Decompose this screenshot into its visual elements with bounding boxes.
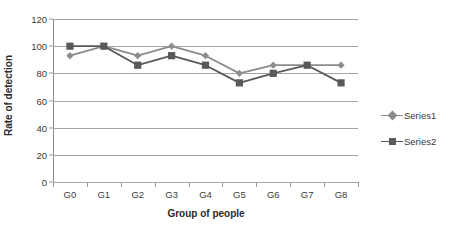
y-axis-tick-labels: 020406080100120 xyxy=(18,0,50,236)
x-axis-tick-label: G1 xyxy=(97,189,110,200)
x-axis-tick-label: G3 xyxy=(165,189,178,200)
y-axis-tick-label: 120 xyxy=(31,14,47,25)
data-point-diamond xyxy=(202,52,209,59)
x-axis-title: Group of people xyxy=(53,208,359,219)
y-axis-tick-label: 20 xyxy=(36,149,47,160)
data-point-square xyxy=(270,70,277,77)
legend-swatch xyxy=(381,109,403,121)
x-axis-tick-label: G2 xyxy=(131,189,144,200)
y-axis-tick xyxy=(49,19,53,20)
x-axis-tick-label: G5 xyxy=(233,189,246,200)
legend-item-series1[interactable]: Series1 xyxy=(381,105,453,125)
data-point-square xyxy=(304,62,311,69)
x-axis-tick-labels: G0G1G2G3G4G5G6G7G8 xyxy=(53,189,359,203)
y-axis-tick xyxy=(49,182,53,183)
x-axis-tick xyxy=(53,183,54,187)
x-axis-tick xyxy=(324,183,325,187)
data-point-square xyxy=(168,52,175,59)
line-chart: Rate of detection 020406080100120 G0G1G2… xyxy=(0,0,453,236)
y-axis-title-label: Rate of detection xyxy=(4,54,15,135)
x-axis-tick xyxy=(358,183,359,187)
y-axis-tick-label: 80 xyxy=(36,68,47,79)
x-axis-tick xyxy=(87,183,88,187)
data-point-diamond xyxy=(134,52,141,59)
x-axis-tick xyxy=(121,183,122,187)
legend-swatch xyxy=(381,135,403,147)
legend-label: Series1 xyxy=(403,110,436,121)
data-point-square xyxy=(236,79,243,86)
chart-legend: Series1Series2 xyxy=(381,105,453,157)
x-axis-tick xyxy=(155,183,156,187)
gridline xyxy=(53,182,358,183)
x-axis-tick-label: G8 xyxy=(335,189,348,200)
data-point-square xyxy=(134,62,141,69)
data-point-diamond xyxy=(66,52,73,59)
y-axis-tick xyxy=(49,127,53,128)
y-axis-tick xyxy=(49,46,53,47)
legend-diamond-icon xyxy=(388,110,398,120)
data-point-square xyxy=(202,62,209,69)
x-axis-tick-label: G4 xyxy=(199,189,212,200)
data-point-diamond xyxy=(236,70,243,77)
legend-item-series2[interactable]: Series2 xyxy=(381,131,453,151)
legend-label: Series2 xyxy=(403,136,436,147)
data-point-diamond xyxy=(168,43,175,50)
y-axis-title: Rate of detection xyxy=(0,0,18,190)
y-axis-tick-label: 0 xyxy=(42,177,47,188)
y-axis-tick-label: 40 xyxy=(36,122,47,133)
x-axis-tick-label: G6 xyxy=(267,189,280,200)
data-point-diamond xyxy=(337,62,344,69)
x-axis-tick xyxy=(290,183,291,187)
legend-square-icon xyxy=(389,138,396,145)
y-axis-tick xyxy=(49,100,53,101)
x-axis-tick xyxy=(222,183,223,187)
x-axis-tick-label: G7 xyxy=(301,189,314,200)
data-point-square xyxy=(100,43,107,50)
series-plot xyxy=(53,19,358,182)
x-axis-ticks xyxy=(53,183,359,187)
data-point-square xyxy=(66,43,73,50)
y-axis-tick-label: 60 xyxy=(36,95,47,106)
data-point-square xyxy=(337,79,344,86)
x-axis-tick-label: G0 xyxy=(64,189,77,200)
data-point-diamond xyxy=(270,62,277,69)
plot-area xyxy=(53,19,358,182)
y-axis-tick-label: 100 xyxy=(31,41,47,52)
y-axis-tick xyxy=(49,154,53,155)
x-axis-tick xyxy=(256,183,257,187)
y-axis-tick xyxy=(49,73,53,74)
x-axis-tick xyxy=(189,183,190,187)
